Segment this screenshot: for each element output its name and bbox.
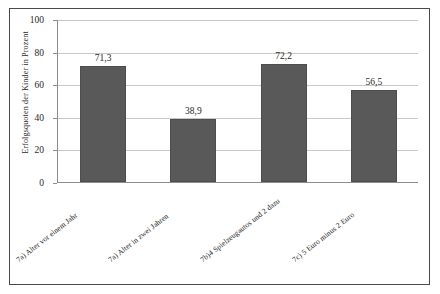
bar[interactable]: [80, 66, 126, 182]
bar[interactable]: [170, 119, 216, 182]
y-tick-label: 0: [39, 178, 44, 188]
bar[interactable]: [261, 64, 307, 182]
bar-value-label: 71,3: [58, 53, 148, 63]
bar[interactable]: [351, 90, 397, 182]
bar-slot: 38,9: [148, 20, 238, 182]
y-tick-label: 60: [35, 80, 45, 90]
bar-slot: 72,2: [239, 20, 329, 182]
plot-area: 71,338,972,256,5: [57, 20, 418, 183]
bar-value-label: 56,5: [329, 77, 419, 87]
y-tick-mark: [53, 85, 57, 86]
bar-slot: 71,3: [58, 20, 148, 182]
bar-slot: 56,5: [329, 20, 419, 182]
bar-chart-figure: Erfolgsquoten der Kinder in Prozent 0204…: [0, 0, 440, 294]
bar-value-label: 72,2: [239, 51, 329, 61]
y-tick-mark: [53, 118, 57, 119]
y-tick-mark: [53, 20, 57, 21]
y-tick-mark: [53, 150, 57, 151]
bar-value-label: 38,9: [148, 106, 238, 116]
y-tick-label: 80: [35, 48, 45, 58]
bar-series: 71,338,972,256,5: [58, 20, 418, 182]
y-tick-mark: [53, 183, 57, 184]
y-tick-label: 40: [35, 113, 45, 123]
y-axis-tick-labels: 020406080100: [0, 20, 50, 183]
y-tick-label: 20: [35, 145, 45, 155]
y-tick-mark: [53, 53, 57, 54]
y-tick-label: 100: [30, 15, 44, 25]
